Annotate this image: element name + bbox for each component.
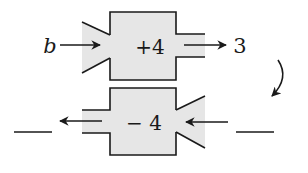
bottom-operation-label: − 4 — [126, 111, 162, 135]
top-input-variable: b — [43, 34, 56, 58]
top-machine: +4 — [82, 12, 205, 80]
top-output-value: 3 — [233, 34, 246, 58]
top-operation-label: +4 — [135, 35, 164, 59]
curved-arrow-icon — [272, 60, 283, 96]
function-machine-diagram: +4 b 3 − 4 — [0, 0, 308, 173]
